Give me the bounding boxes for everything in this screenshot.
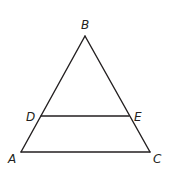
segment-bc xyxy=(85,36,150,152)
label-e: E xyxy=(134,110,142,124)
label-c: C xyxy=(153,152,162,166)
label-a: A xyxy=(7,152,16,166)
label-b: B xyxy=(81,18,89,32)
label-d: D xyxy=(26,110,35,124)
triangle-diagram: B D E A C xyxy=(0,0,170,171)
segment-ab xyxy=(21,36,85,152)
